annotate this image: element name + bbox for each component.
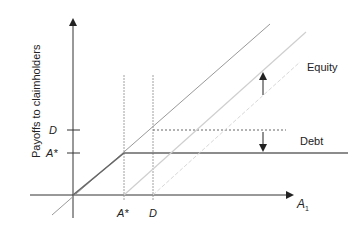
equity-line [124,32,306,195]
y-tick-label-d: D [49,124,57,136]
x-tick-label-astar: A* [116,207,129,219]
debt-rising-segment [73,153,124,195]
y-axis-label: Payoffs to claimholders [30,44,42,158]
equity-label: Equity [307,61,338,73]
x-axis-label: A1 [296,197,309,212]
y-tick-label-astar: A* [45,147,58,159]
payoff-diagram: Payoffs to claimholders D A* A* D A1 Equ… [0,0,348,229]
debt-label: Debt [300,135,323,147]
x-tick-label-d: D [149,207,157,219]
equity-line-shifted [153,62,300,195]
